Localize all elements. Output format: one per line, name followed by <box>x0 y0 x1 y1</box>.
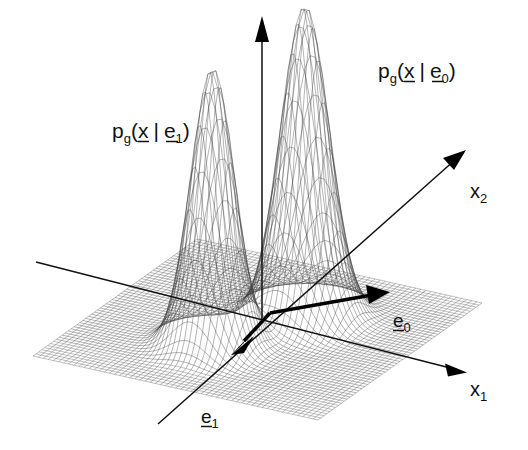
pg0-open: ( <box>397 59 404 82</box>
pg0-x: x <box>404 59 415 82</box>
x1-base: x <box>470 378 480 400</box>
figure-root: pg(x|e1) pg(x|e0) x2 <box>0 0 528 450</box>
pg0-close: ) <box>449 59 456 82</box>
pg1-sub: g <box>124 131 131 146</box>
x2-base: x <box>470 180 480 202</box>
pg1-close: ) <box>183 119 190 142</box>
pg1-bar: | <box>153 119 158 142</box>
pg1-open: ( <box>131 119 138 142</box>
x2-sub: 2 <box>480 191 487 206</box>
pg0-esub: 0 <box>442 71 449 86</box>
e0-base: e <box>393 310 404 331</box>
x1-sub: 1 <box>480 389 487 404</box>
e0-sub: 0 <box>404 320 411 335</box>
e1-base: e <box>201 406 212 427</box>
pg0-e: e <box>430 59 442 82</box>
pg1-esub: 1 <box>176 131 183 146</box>
e1-sub: 1 <box>212 416 219 431</box>
pg1-x: x <box>138 119 149 142</box>
pg0-bar: | <box>419 59 424 82</box>
pg1-p: p <box>112 119 124 142</box>
pg0-p: p <box>378 59 390 82</box>
pg1-e: e <box>164 119 176 142</box>
gaussian-surface-plot: pg(x|e1) pg(x|e0) x2 <box>0 0 528 450</box>
pg0-sub: g <box>390 71 397 86</box>
